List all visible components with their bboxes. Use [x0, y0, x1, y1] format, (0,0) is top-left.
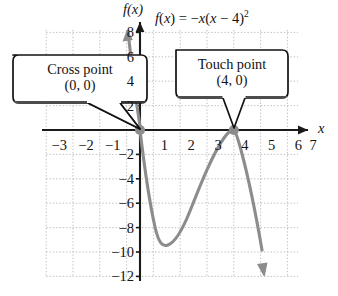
x-axis: [42, 126, 308, 135]
ytick-label: −10: [100, 245, 134, 260]
xtick-label: 4: [239, 138, 251, 153]
ytick-label: −2: [108, 147, 134, 162]
callout-cross-point-line1: Cross point: [47, 61, 113, 77]
xtick-label: 7: [307, 138, 319, 153]
callout-cross-point-text: Cross point (0, 0): [13, 61, 147, 93]
callout-touch-point-line1: Touch point: [198, 56, 267, 72]
xtick-label: 5: [266, 138, 278, 153]
xtick-label: 6: [292, 138, 304, 153]
ytick-label: −8: [108, 221, 134, 236]
xtick-label: 3: [212, 138, 224, 153]
y-axis-label: f(x): [123, 2, 143, 17]
ytick-label: −4: [108, 172, 134, 187]
bottom-margin: [0, 288, 338, 296]
figure-stage: f(x) x f(x) = −x(x − 4)2 −3 −2 −1 1 2 3 …: [0, 0, 338, 296]
ytick-label: 2: [112, 99, 134, 114]
xtick-label: 1: [158, 138, 170, 153]
xtick-label: −3: [50, 138, 68, 153]
ytick-label: −6: [108, 196, 134, 211]
callout-touch-point-line2: (4, 0): [176, 72, 288, 88]
ytick-label: −12: [100, 269, 134, 284]
callout-cross-point-line2: (0, 0): [13, 77, 147, 93]
x-axis-label: x: [318, 121, 324, 136]
xtick-label: −2: [77, 138, 95, 153]
ytick-label: 8: [112, 25, 134, 40]
xtick-label: 2: [185, 138, 197, 153]
callout-touch-point-text: Touch point (4, 0): [176, 56, 288, 88]
equation-label: f(x) = −x(x − 4)2: [155, 10, 249, 25]
